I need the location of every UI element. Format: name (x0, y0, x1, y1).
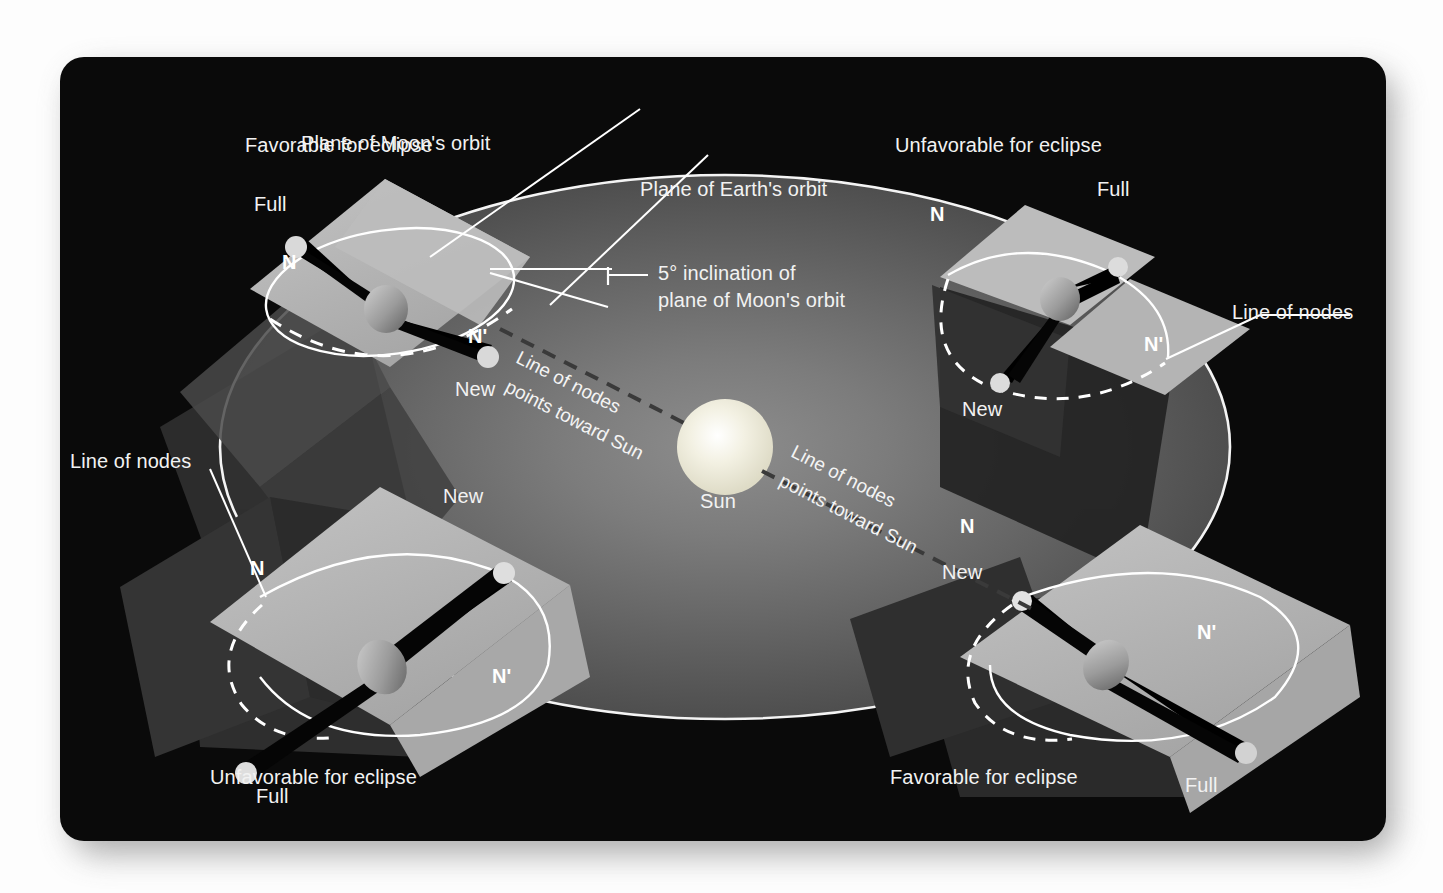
label-bottom-left-full: Full (256, 784, 289, 808)
caption-bottom-left: Unfavorable for eclipse (210, 765, 417, 789)
diagram-vector (60, 57, 1386, 841)
moon-full-bottom-right (1235, 742, 1257, 764)
label-top-right-full: Full (1097, 177, 1130, 201)
label-sun: Sun (700, 489, 736, 513)
label-inclination-line2: plane of Moon's orbit (658, 288, 845, 312)
label-bottom-left-new: New (443, 484, 483, 508)
label-top-right-new: New (962, 397, 1002, 421)
label-bottom-right-new: New (942, 560, 982, 584)
label-top-right-node-nprime: N' (1144, 333, 1163, 356)
label-top-left-full: Full (254, 192, 287, 216)
caption-top-right: Unfavorable for eclipse (895, 133, 1102, 157)
moon-new-top-right (990, 373, 1010, 393)
moon-new-top-left (477, 346, 499, 368)
diagram-panel: Plane of Moon's orbit Plane of Earth's o… (60, 57, 1386, 841)
caption-top-left: Favorable for eclipse (245, 133, 433, 157)
label-top-left-node-n: N (282, 251, 296, 274)
moon-full-top-right (1108, 257, 1128, 277)
moon-new-bottom-left (493, 562, 515, 584)
label-bottom-right-full: Full (1185, 773, 1218, 797)
label-bottom-left-node-nprime: N' (492, 665, 511, 688)
label-bottom-left-node-n: N (250, 557, 264, 580)
label-top-right-node-n: N (930, 203, 944, 226)
earth-sphere-top-left (364, 285, 408, 333)
label-bottom-right-node-nprime: N' (1197, 621, 1216, 644)
label-top-left-new: New (455, 377, 495, 401)
label-top-left-node-nprime: N' (468, 325, 487, 348)
earth-sphere-top-right (1040, 277, 1080, 321)
figure-root: Plane of Moon's orbit Plane of Earth's o… (0, 0, 1443, 893)
label-line-of-nodes-left: Line of nodes (70, 449, 191, 473)
diagram-stage: Plane of Moon's orbit Plane of Earth's o… (60, 57, 1386, 841)
sun-sphere (677, 399, 773, 495)
label-line-of-nodes-right: Line of nodes (1232, 300, 1353, 324)
caption-bottom-right: Favorable for eclipse (890, 765, 1078, 789)
label-inclination-line1: 5° inclination of (658, 261, 796, 285)
label-bottom-right-node-n: N (960, 515, 974, 538)
label-plane-of-earths-orbit: Plane of Earth's orbit (640, 177, 827, 201)
